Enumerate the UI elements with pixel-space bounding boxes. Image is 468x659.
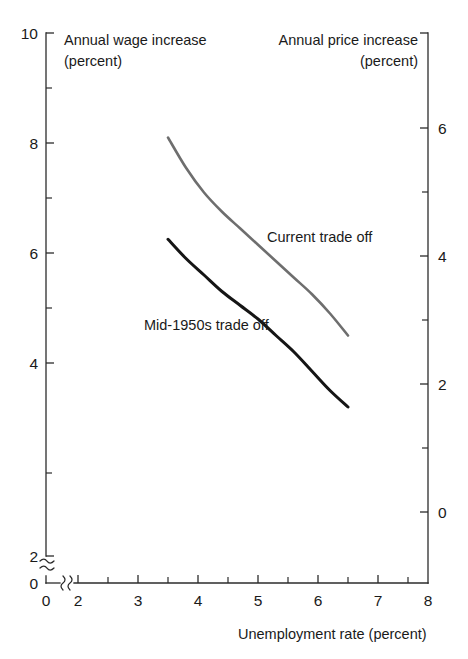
phillips-curve-figure: 10 8 6 4 2 0 6 4 2 0 0 2 3 4 5 6 7 8 Ann…: [0, 0, 468, 659]
left-tick-label-0: 0: [29, 575, 38, 592]
left-tick-label-10: 10: [21, 25, 39, 42]
left-tick-label-2: 2: [29, 548, 38, 565]
axis-break-marks: [40, 559, 72, 590]
y-axis-break-icon-second: [40, 566, 54, 570]
bottom-axis-ticks: [78, 575, 408, 583]
left-axis-tick-labels: 10 8 6 4 2 0: [21, 25, 39, 592]
right-axis-title-line1: Annual price increase: [279, 32, 418, 48]
right-tick-label-6: 6: [438, 120, 447, 137]
x-tick-label-2: 2: [74, 592, 83, 609]
bottom-axis-tick-labels: 0 2 3 4 5 6 7 8: [42, 592, 433, 609]
x-tick-label-7: 7: [374, 592, 383, 609]
left-tick-label-8: 8: [29, 135, 38, 152]
left-axis-ticks: [46, 88, 54, 556]
left-axis-title-line1: Annual wage increase: [64, 32, 207, 48]
chart-canvas: 10 8 6 4 2 0 6 4 2 0 0 2 3 4 5 6 7 8 Ann…: [0, 0, 468, 659]
axis-titles: Annual wage increase (percent) Annual pr…: [64, 32, 427, 642]
x-tick-label-8: 8: [424, 592, 433, 609]
right-tick-label-4: 4: [438, 248, 447, 265]
x-tick-label-0: 0: [42, 592, 51, 609]
right-tick-label-0: 0: [438, 504, 447, 521]
left-tick-label-6: 6: [29, 245, 38, 262]
left-tick-label-4: 4: [29, 355, 38, 372]
series-label-current-trade-off: Current trade off: [267, 229, 373, 245]
y-axis-break-icon: [40, 559, 54, 563]
right-axis-tick-labels: 6 4 2 0: [438, 120, 447, 521]
x-axis-title: Unemployment rate (percent): [238, 626, 427, 642]
x-tick-label-6: 6: [314, 592, 323, 609]
x-axis-break-icon: [61, 576, 65, 590]
right-axis-title-line2: (percent): [360, 53, 418, 69]
x-axis-break-icon-second: [68, 576, 72, 590]
x-tick-label-5: 5: [254, 592, 263, 609]
data-curves: [168, 138, 348, 408]
axis-frame: [46, 33, 428, 583]
x-tick-label-4: 4: [194, 592, 203, 609]
left-axis-title-line2: (percent): [64, 53, 122, 69]
x-tick-label-3: 3: [134, 592, 143, 609]
right-axis-ticks: [420, 128, 428, 512]
series-label-mid-1950s-trade-off: Mid-1950s trade off: [144, 317, 270, 333]
right-tick-label-2: 2: [438, 376, 447, 393]
